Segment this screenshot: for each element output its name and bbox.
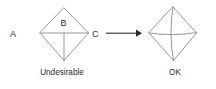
vertex-label-c: C [92,29,99,39]
right-diamond-horizontal-diagonal [149,33,197,35]
right-diamond-vertical-diagonal [171,7,174,61]
right-caption: OK [169,68,181,77]
right-diamond-group [149,7,197,61]
transition-arrow [106,30,142,37]
diagram-svg: A B C Undesirable OK [0,0,216,89]
left-caption: Undesirable [40,68,84,77]
arrow-head-icon [136,30,142,37]
vertex-label-a: A [10,29,16,39]
left-diamond-group [40,8,89,61]
figure-canvas: A B C Undesirable OK [0,0,216,89]
vertex-label-b: B [61,18,67,28]
